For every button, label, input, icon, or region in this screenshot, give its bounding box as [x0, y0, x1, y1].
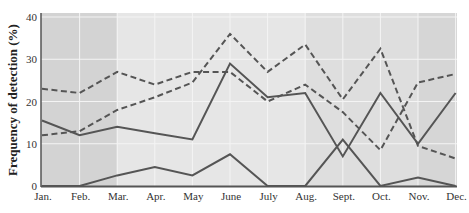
line-chart: 010203040 Jan.Feb.Mar.Apr.MayJuneJulyAug… — [0, 0, 469, 213]
x-tick-label: Apr. — [146, 190, 166, 202]
y-tick-label: 30 — [26, 53, 38, 65]
x-tick-label: July — [259, 190, 278, 202]
y-axis-title: Frequency of detection (%) — [5, 24, 20, 176]
y-tick-label: 40 — [26, 11, 38, 23]
x-tick-label: Oct. — [372, 190, 391, 202]
y-tick-labels: 010203040 — [26, 11, 38, 192]
y-tick-label: 10 — [26, 138, 38, 150]
x-tick-labels: Jan.Feb.Mar.Apr.MayJuneJulyAug.Sept.Oct.… — [34, 190, 467, 202]
x-tick-label: Aug. — [295, 190, 317, 202]
x-tick-label: Feb. — [71, 190, 91, 202]
background-bands — [41, 13, 457, 186]
x-tick-label: Dec. — [446, 190, 467, 202]
x-tick-label: June — [221, 190, 241, 202]
x-tick-label: May — [183, 190, 204, 202]
x-tick-label: Nov. — [409, 190, 430, 202]
y-tick-label: 20 — [26, 96, 38, 108]
x-tick-label: Sept. — [333, 190, 356, 202]
x-tick-label: Mar. — [108, 190, 129, 202]
x-tick-label: Jan. — [34, 190, 52, 202]
